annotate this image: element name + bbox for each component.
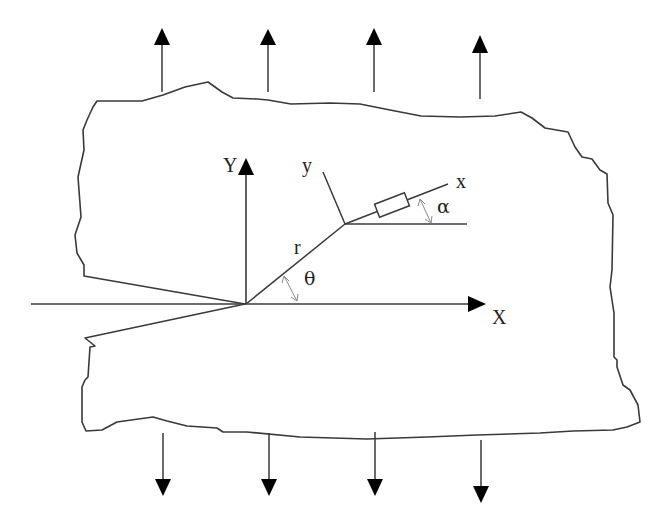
- local-y-label: y: [302, 154, 312, 177]
- global-y-arrowhead: [238, 158, 254, 175]
- load-arrow-up: [260, 29, 276, 92]
- load-arrow-up: [154, 28, 170, 92]
- load-arrow-up: [366, 28, 382, 92]
- cracked-plate-diagram: X Y r θ y x α: [0, 0, 671, 522]
- theta-angle-marker: [282, 276, 298, 301]
- alpha-angle-marker: [418, 199, 432, 223]
- global-x-label: X: [492, 306, 507, 328]
- load-arrow-up: [472, 35, 488, 99]
- global-x-arrowhead: [468, 296, 486, 312]
- load-arrow-down: [473, 440, 489, 503]
- bottom-load-arrows: [155, 432, 489, 503]
- alpha-label: α: [437, 195, 450, 217]
- local-x-label: x: [456, 170, 466, 192]
- theta-label: θ: [304, 267, 315, 289]
- load-arrow-down: [261, 433, 277, 496]
- local-y-axis: [323, 172, 345, 224]
- radius-label: r: [294, 236, 301, 258]
- top-load-arrows: [154, 28, 488, 99]
- strain-gauge: [375, 193, 410, 218]
- plate-outline: [75, 82, 640, 439]
- load-arrow-down: [367, 432, 383, 496]
- global-y-label: Y: [223, 154, 237, 176]
- load-arrow-down: [155, 433, 171, 496]
